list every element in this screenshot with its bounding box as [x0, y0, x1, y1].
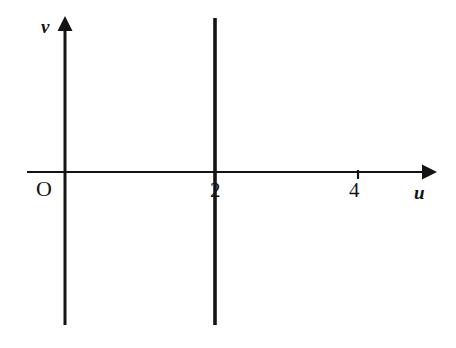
figure-canvas: v u O 2 4 [0, 0, 456, 348]
coordinate-plane-diagram [0, 0, 456, 348]
tick-label-u-4: 4 [349, 180, 360, 201]
tick-label-u-2: 2 [210, 180, 221, 201]
u-axis-arrowhead-icon [422, 165, 437, 180]
origin-label: O [36, 178, 52, 200]
v-axis-arrowhead-icon [58, 16, 73, 31]
v-axis-label: v [41, 17, 49, 36]
u-axis-label: u [414, 183, 425, 202]
